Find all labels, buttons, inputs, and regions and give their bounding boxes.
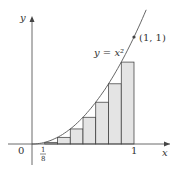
point-1-1 (132, 35, 135, 38)
x-axis-arrow-icon (164, 142, 170, 147)
riemann-sum-diagram: y x 0 1 1 8 y = x² (1, 1) (0, 0, 177, 176)
riemann-rectangle (109, 84, 122, 144)
riemann-rectangle (83, 117, 96, 144)
origin-label: 0 (18, 145, 24, 156)
y-axis-label: y (19, 12, 26, 23)
x-axis-label: x (162, 147, 168, 158)
point-label: (1, 1) (139, 32, 166, 43)
riemann-rectangle (58, 137, 71, 144)
curve-label: y = x² (93, 47, 124, 58)
riemann-rectangle (121, 62, 134, 144)
riemann-rectangle (70, 129, 83, 144)
y-axis-arrow-icon (30, 16, 35, 22)
tick-eighth-denominator: 8 (41, 155, 45, 163)
plot: y x 0 1 1 8 y = x² (1, 1) (0, 0, 177, 176)
riemann-rectangles (45, 62, 134, 144)
tick-eighth-numerator: 1 (41, 146, 45, 154)
tick-one-label: 1 (131, 145, 137, 156)
riemann-rectangle (96, 102, 109, 144)
